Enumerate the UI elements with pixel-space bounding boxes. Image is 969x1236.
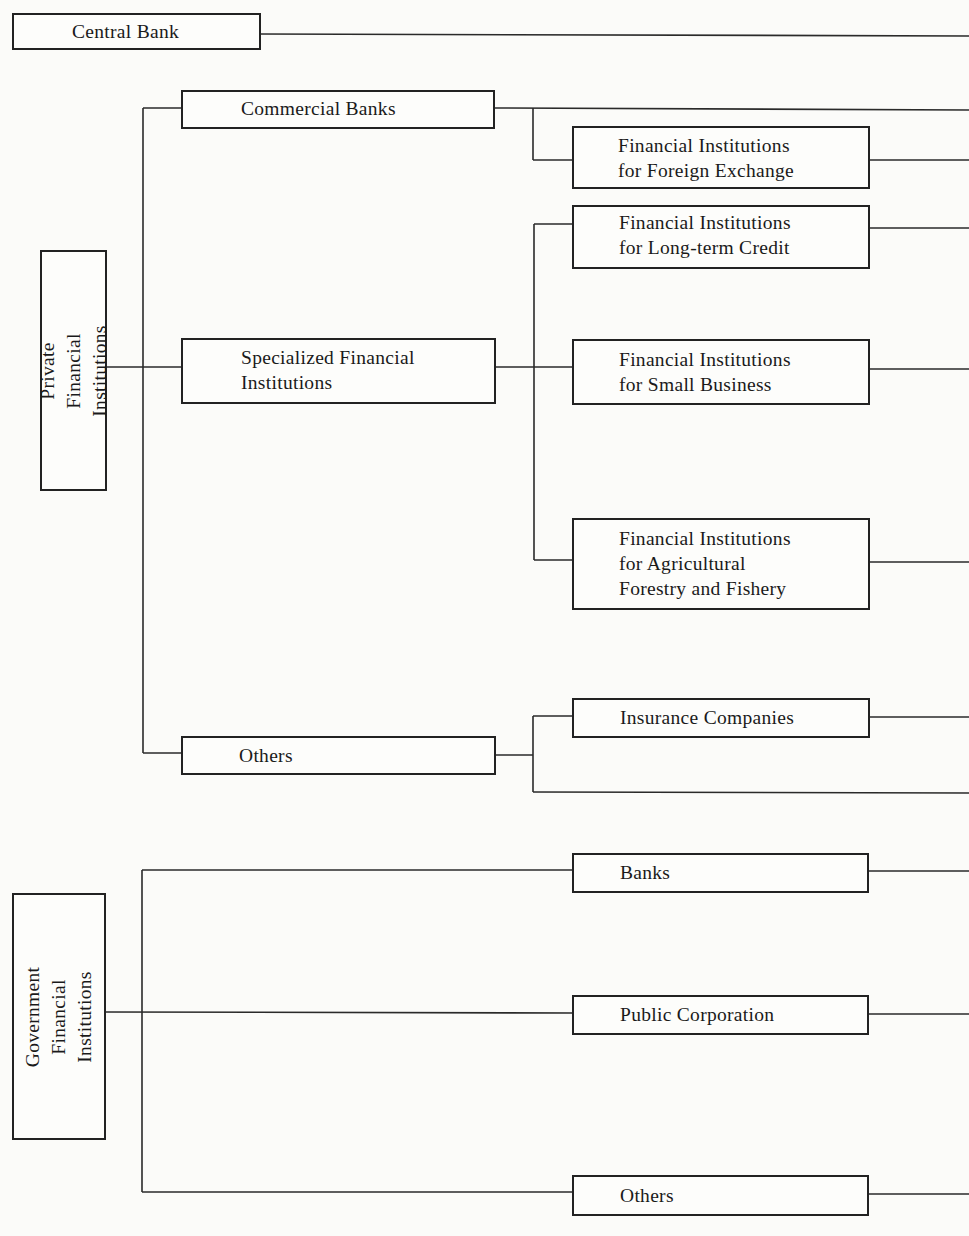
long-term-credit-label: Financial Institutions for Long-term Cre… <box>619 210 791 260</box>
commercial-banks-label: Commercial Banks <box>241 96 396 121</box>
specialized-financial-institutions-label: Specialized Financial Institutions <box>241 345 415 395</box>
small-business-label: Financial Institutions for Small Busines… <box>619 347 791 397</box>
commercial-banks-node: Commercial Banks <box>181 90 495 129</box>
insurance-companies-node: Insurance Companies <box>572 698 870 738</box>
government-financial-institutions-label: Government Financial Institutions <box>20 966 98 1066</box>
private-others-label: Others <box>239 743 293 768</box>
government-banks-node: Banks <box>572 853 869 893</box>
public-corporation-node: Public Corporation <box>572 995 869 1035</box>
agricultural-forestry-fishery-label: Financial Institutions for Agricultural … <box>619 526 791 601</box>
insurance-companies-label: Insurance Companies <box>620 705 794 730</box>
government-banks-label: Banks <box>620 860 670 885</box>
public-corporation-label: Public Corporation <box>620 1002 774 1027</box>
foreign-exchange-label: Financial Institutions for Foreign Excha… <box>618 133 794 183</box>
specialized-financial-institutions-node: Specialized Financial Institutions <box>181 338 496 404</box>
foreign-exchange-node: Financial Institutions for Foreign Excha… <box>572 126 870 189</box>
central-bank-label: Central Bank <box>72 19 179 44</box>
private-financial-institutions-label: Private Financial Institutions <box>35 325 113 416</box>
private-others-node: Others <box>181 736 496 775</box>
long-term-credit-node: Financial Institutions for Long-term Cre… <box>572 205 870 269</box>
private-financial-institutions-node: Private Financial Institutions <box>40 250 107 491</box>
agricultural-forestry-fishery-node: Financial Institutions for Agricultural … <box>572 518 870 610</box>
government-others-node: Others <box>572 1175 869 1216</box>
small-business-node: Financial Institutions for Small Busines… <box>572 339 870 405</box>
central-bank-node: Central Bank <box>12 13 261 50</box>
government-others-label: Others <box>620 1183 674 1208</box>
government-financial-institutions-node: Government Financial Institutions <box>12 893 106 1140</box>
